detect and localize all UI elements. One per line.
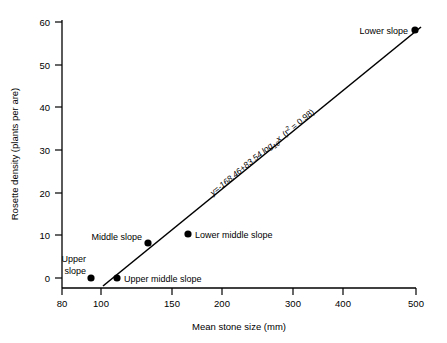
axes <box>62 20 416 288</box>
regression-equation-annotation: y=-168.46+83.54 log10x(r2 = 0.98) <box>206 106 317 200</box>
x-tick-label-500: 500 <box>408 298 424 309</box>
label-upper-slope-line2: slope <box>64 266 86 276</box>
point-labels: Upper slope Upper middle slope Middle sl… <box>61 26 408 284</box>
data-point-upper-middle-slope <box>113 274 120 281</box>
equation-text: y=-168.46+83.54 log10x(r2 = 0.98) <box>206 106 317 200</box>
y-tick-label-60: 60 <box>39 17 50 28</box>
data-point-upper-slope <box>87 274 94 281</box>
rsq-value: = 0.98) <box>287 107 316 133</box>
label-middle-slope: Middle slope <box>91 232 142 242</box>
x-axis-title: Mean stone size (mm) <box>192 321 286 332</box>
x-axis-ticks: 80 100 150 200 300 400 500 <box>57 288 424 309</box>
y-tick-label-50: 50 <box>39 60 50 71</box>
data-point-middle-slope <box>144 239 151 246</box>
x-tick-label-300: 300 <box>285 298 301 309</box>
equation-main: y=-168.46+83.54 log <box>207 140 275 198</box>
x-tick-label-400: 400 <box>335 298 351 309</box>
scatter-chart: 0 10 20 30 40 50 60 80 100 150 200 300 4… <box>0 0 447 343</box>
y-tick-label-40: 40 <box>39 102 50 113</box>
label-lower-slope: Lower slope <box>359 26 408 36</box>
x-tick-label-100: 100 <box>93 298 109 309</box>
data-point-lower-middle-slope <box>184 230 191 237</box>
x-tick-label-150: 150 <box>164 298 180 309</box>
y-tick-label-0: 0 <box>45 273 50 284</box>
data-point-lower-slope <box>411 26 418 33</box>
x-tick-label-200: 200 <box>214 298 230 309</box>
y-tick-label-30: 30 <box>39 145 50 156</box>
y-tick-label-20: 20 <box>39 188 50 199</box>
chart-canvas: 0 10 20 30 40 50 60 80 100 150 200 300 4… <box>0 0 447 343</box>
label-upper-slope-line1: Upper <box>61 254 86 264</box>
label-lower-middle-slope: Lower middle slope <box>195 230 273 240</box>
y-axis-ticks: 0 10 20 30 40 50 60 <box>39 17 62 284</box>
y-axis-title: Rosette density (plants per are) <box>9 88 20 221</box>
x-tick-label-80: 80 <box>57 298 68 309</box>
y-tick-label-10: 10 <box>39 230 50 241</box>
label-upper-middle-slope: Upper middle slope <box>124 274 202 284</box>
